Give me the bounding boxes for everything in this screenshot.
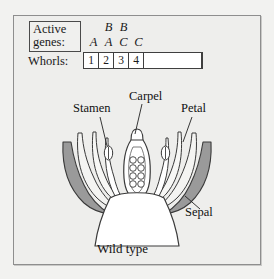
gene-row-ac: A A C C [86, 35, 146, 50]
active-genes-box: Active genes: [29, 21, 81, 52]
gene-bottom-2: A [101, 35, 116, 50]
label-petal: Petal [181, 101, 206, 116]
gene-bottom-4: C [131, 35, 146, 50]
whorl-cell-1: 1 [84, 53, 99, 68]
gene-bottom-1: A [86, 35, 101, 50]
whorl-cell-3: 3 [114, 53, 129, 68]
label-stamen: Stamen [73, 101, 111, 116]
whorls-label: Whorls: [28, 54, 68, 69]
whorl-cell-2: 2 [99, 53, 114, 68]
whorl-cell-empty [144, 53, 202, 68]
whorls-strip: 1 2 3 4 [83, 52, 203, 69]
label-carpel: Carpel [129, 89, 162, 104]
gene-top-2: B [101, 20, 116, 35]
figure-panel: Active genes: Whorls: B B A A C C 1 2 3 … [0, 0, 274, 279]
active-genes-label-line2: genes: [33, 36, 80, 49]
gene-top-3: B [116, 20, 131, 35]
label-sepal: Sepal [185, 205, 213, 220]
figure-caption: Wild type [97, 241, 148, 257]
gene-bottom-3: C [116, 35, 131, 50]
gene-row-b: B B [86, 20, 146, 35]
gene-letters: B B A A C C [86, 20, 146, 50]
whorl-cell-4: 4 [129, 53, 144, 68]
